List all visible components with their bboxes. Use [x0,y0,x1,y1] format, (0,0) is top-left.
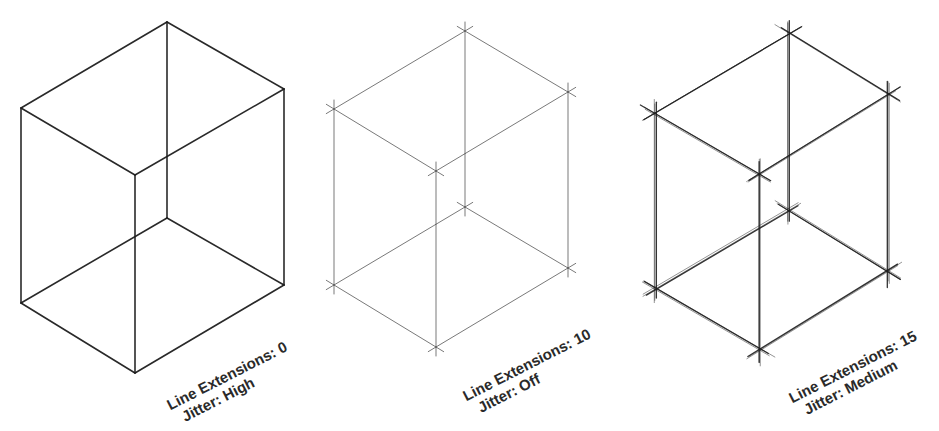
cube-jitter-high [21,22,284,373]
cube-edge [775,25,901,102]
cube-edge [642,282,769,356]
cube-edge [775,201,900,278]
cube-edge [326,104,443,175]
cube-edge [457,26,575,96]
cube-edge [748,91,895,182]
cube-edge [21,108,135,175]
cube-edge [21,303,135,373]
cube-edge [21,22,167,108]
cube-edge [645,109,770,182]
cube-edge [748,264,898,356]
cube-edge [326,26,472,113]
cube-edge [326,280,443,351]
cube-extensions-10 [326,22,575,356]
cube-edge [135,89,284,175]
cube-edge [643,203,801,296]
cube-edge [643,203,798,294]
cube-edge [747,87,901,182]
cube-edge [21,218,167,303]
cube-edge [326,202,472,289]
cube-sketch-figure [0,0,939,431]
cube-extensions-15-jitter-medium [640,21,901,366]
cube-edge [644,281,775,357]
cube-edge [645,107,771,180]
cube-edge [428,263,575,351]
cube-edge [167,22,284,89]
cube-edge [781,28,897,99]
cube-edge [457,202,575,272]
cube-edge [167,218,284,285]
cube-edge [428,87,575,175]
cube-edge [646,206,798,295]
cube-edge [644,27,800,119]
cube-edge [777,204,900,280]
